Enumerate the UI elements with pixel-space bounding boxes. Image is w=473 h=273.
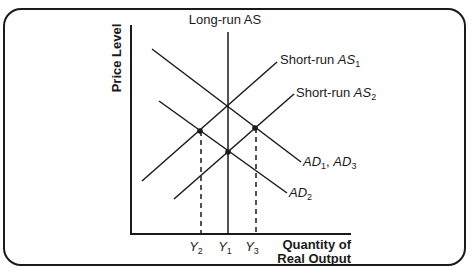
sras2-label: Short-run AS2 (296, 85, 376, 102)
x-tick-y3: Y3 (245, 239, 259, 256)
equilibrium-point-e2 (197, 128, 203, 134)
equilibrium-point-e1 (225, 149, 231, 155)
x-tick-y2: Y2 (189, 239, 203, 256)
ad2-line (159, 101, 287, 193)
sras1-label: Short-run AS1 (280, 52, 360, 69)
ad2-label: AD2 (288, 185, 312, 202)
ad-as-diagram: Price Level Long-run AS Short-run AS1 Sh… (0, 0, 473, 273)
lras-label: Long-run AS (189, 12, 262, 27)
ad1-ad3-label: AD1, AD3 (302, 154, 356, 171)
ad1-line (152, 49, 301, 162)
sras1-line (142, 62, 277, 181)
x-tick-y1: Y1 (218, 239, 232, 256)
y-axis-label: Price Level (109, 24, 124, 93)
x-axis-label-line2: Real Output (277, 251, 351, 266)
x-axis-label-line1: Quantity of (282, 237, 351, 252)
sras2-line (174, 94, 294, 199)
equilibrium-point-e3 (252, 125, 258, 131)
